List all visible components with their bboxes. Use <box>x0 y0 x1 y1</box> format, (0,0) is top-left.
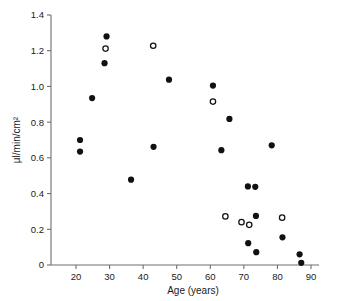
tick-group <box>47 15 311 269</box>
data-point-filled <box>77 137 83 143</box>
data-point-filled <box>252 184 258 190</box>
x-axis-title: Age (years) <box>167 285 219 296</box>
x-tick-label: 70 <box>239 271 250 282</box>
data-point-filled <box>128 177 134 183</box>
x-tick-label: 20 <box>71 271 82 282</box>
data-point-filled <box>296 251 302 257</box>
plot-canvas: 00.20.40.60.81.01.21.42030405060708090 A… <box>0 0 337 301</box>
data-point-open <box>247 222 252 227</box>
data-point-filled <box>166 77 172 83</box>
data-point-filled <box>150 144 156 150</box>
data-point-filled <box>218 147 224 153</box>
y-tick-label: 1.4 <box>31 9 44 20</box>
data-point-open <box>223 214 228 219</box>
data-point-filled <box>245 183 251 189</box>
x-tick-label: 90 <box>306 271 317 282</box>
data-point-filled <box>245 240 251 246</box>
data-point-open <box>151 43 156 48</box>
y-tick-label: 1.0 <box>31 81 44 92</box>
data-point-open <box>239 219 244 224</box>
data-point-filled <box>101 60 107 66</box>
x-tick-label: 50 <box>171 271 182 282</box>
data-point-filled <box>253 213 259 219</box>
x-tick-label: 80 <box>272 271 283 282</box>
y-tick-label: 0 <box>39 259 44 270</box>
y-tick-label: 0.6 <box>31 152 44 163</box>
data-point-open <box>279 215 284 220</box>
axis-group <box>51 15 319 265</box>
x-tick-label: 30 <box>104 271 115 282</box>
data-point-filled <box>89 95 95 101</box>
y-axis-title: μl/min/cm² <box>11 116 22 163</box>
scatter-plot-figure: 00.20.40.60.81.01.21.42030405060708090 A… <box>0 0 337 301</box>
data-point-open <box>210 99 215 104</box>
data-point-open <box>103 46 108 51</box>
y-tick-label: 0.4 <box>31 188 44 199</box>
y-tick-label: 0.2 <box>31 224 44 235</box>
data-point-filled <box>103 33 109 39</box>
data-point-filled <box>298 260 304 266</box>
data-point-filled <box>226 116 232 122</box>
data-point-filled <box>253 249 259 255</box>
y-tick-label: 1.2 <box>31 45 44 56</box>
data-point-filled <box>77 149 83 155</box>
data-point-filled <box>210 82 216 88</box>
data-points-group <box>77 33 304 266</box>
x-tick-label: 40 <box>138 271 149 282</box>
data-point-filled <box>279 234 285 240</box>
x-tick-label: 60 <box>205 271 216 282</box>
data-point-filled <box>269 142 275 148</box>
y-tick-label: 0.8 <box>31 117 44 128</box>
